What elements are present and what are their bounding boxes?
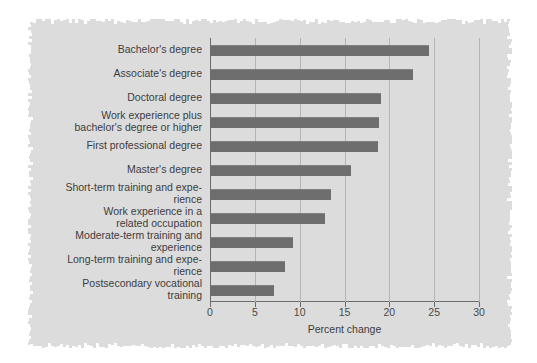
category-label: Master's degree — [2, 163, 202, 176]
category-label-line: Master's degree — [2, 163, 202, 176]
category-label: Associate's degree — [2, 67, 202, 80]
x-tick-label-25: 25 — [428, 306, 440, 318]
category-label: Moderate-term training andexperience — [2, 229, 202, 254]
bar — [211, 189, 331, 200]
category-label-line: training — [2, 289, 202, 302]
category-label: Work experience plusbachelor's degree or… — [2, 109, 202, 134]
category-label: First professional degree — [2, 139, 202, 152]
category-label: Work experience in arelated occupation — [2, 205, 202, 230]
category-label-line: Moderate-term training and — [2, 229, 202, 242]
category-label-line: Associate's degree — [2, 67, 202, 80]
figure-root: Bachelor's degreeAssociate's degreeDocto… — [0, 0, 537, 363]
bar — [211, 213, 325, 224]
category-label-line: Work experience plus — [2, 109, 202, 122]
category-label: Bachelor's degree — [2, 43, 202, 56]
gridline-25 — [434, 38, 435, 302]
x-tick-label-30: 30 — [473, 306, 485, 318]
x-tick-label-10: 10 — [294, 306, 306, 318]
plot-area — [210, 38, 479, 302]
category-labels: Bachelor's degreeAssociate's degreeDocto… — [0, 38, 202, 302]
x-axis-title: Percent change — [210, 323, 479, 335]
bar — [211, 261, 285, 272]
bar — [211, 93, 381, 104]
bar — [211, 141, 378, 152]
bar — [211, 237, 293, 248]
bar — [211, 165, 351, 176]
gridline-30 — [479, 38, 480, 302]
category-label-line: Doctoral degree — [2, 91, 202, 104]
category-label: Long-term training and expe-rience — [2, 253, 202, 278]
category-label-line: Work experience in a — [2, 205, 202, 218]
bar — [211, 69, 413, 80]
category-label-line: Postsecondary vocational — [2, 277, 202, 290]
x-tick-label-5: 5 — [252, 306, 258, 318]
bar — [211, 285, 274, 296]
category-label-line: First professional degree — [2, 139, 202, 152]
category-label-line: Short-term training and expe- — [2, 181, 202, 194]
bar — [211, 117, 379, 128]
category-label: Postsecondary vocationaltraining — [2, 277, 202, 302]
category-label: Short-term training and expe-rience — [2, 181, 202, 206]
category-label-line: Bachelor's degree — [2, 43, 202, 56]
x-tick-label-15: 15 — [339, 306, 351, 318]
x-tick-label-20: 20 — [383, 306, 395, 318]
category-label: Doctoral degree — [2, 91, 202, 104]
bar — [211, 45, 429, 56]
x-tick-label-0: 0 — [207, 306, 213, 318]
category-label-line: bachelor's degree or higher — [2, 121, 202, 134]
category-label-line: Long-term training and expe- — [2, 253, 202, 266]
